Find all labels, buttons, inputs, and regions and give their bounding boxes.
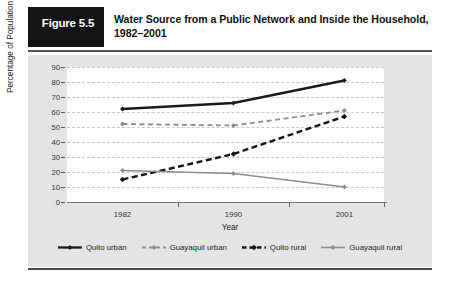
- y-axis-tick-label: 30: [38, 153, 60, 162]
- y-axis-tick-mark: [61, 97, 65, 98]
- y-axis-tick-label: 80: [38, 78, 60, 87]
- data-point-marker: [120, 122, 125, 127]
- panel-bottom-divider: [28, 268, 432, 270]
- y-axis-tick-label: 10: [38, 183, 60, 192]
- y-axis-tick-label: 60: [38, 108, 60, 117]
- x-axis-tick-label: 1982: [97, 210, 147, 219]
- title-divider: [28, 50, 432, 52]
- data-point-marker: [120, 107, 125, 112]
- x-axis-tick-label: 2001: [319, 210, 369, 219]
- series-layer: [67, 67, 384, 202]
- data-point-marker: [231, 101, 236, 106]
- legend-item-quito-rural[interactable]: Quito rural: [242, 243, 306, 252]
- y-axis-tick-label: 0: [38, 198, 60, 207]
- y-axis-tick-label: 20: [38, 168, 60, 177]
- y-axis-tick-mark: [61, 82, 65, 83]
- legend-swatch-icon: [142, 243, 166, 252]
- legend-label: Guayaquil rural: [349, 243, 402, 252]
- data-point-marker: [342, 78, 347, 83]
- figure-number-label: Figure 5.5: [33, 17, 103, 29]
- data-point-marker: [231, 171, 236, 176]
- legend-item-guayaquil-rural[interactable]: Guayaquil rural: [321, 243, 402, 252]
- x-axis-line: [67, 202, 387, 203]
- y-axis-tick-mark: [61, 187, 65, 188]
- data-point-marker: [120, 168, 125, 173]
- data-point-marker: [120, 177, 125, 182]
- figure-container: Figure 5.5 Water Source from a Public Ne…: [0, 0, 452, 291]
- legend-label: Quito rural: [270, 243, 306, 252]
- figure-number-badge: Figure 5.5: [28, 7, 104, 47]
- y-axis-tick-mark: [61, 157, 65, 158]
- y-axis-tick-mark: [61, 202, 65, 203]
- y-axis-tick-mark: [61, 172, 65, 173]
- data-point-marker: [342, 108, 347, 113]
- data-point-marker: [231, 123, 236, 128]
- data-point-marker: [342, 185, 347, 190]
- chart-panel: Percentage of Population 010203040506070…: [28, 55, 432, 267]
- legend-swatch-icon: [242, 243, 266, 252]
- legend-item-guayaquil-urban[interactable]: Guayaquil urban: [142, 243, 227, 252]
- series-quito-urban: [120, 78, 347, 111]
- legend-label: Quito urban: [86, 243, 127, 252]
- y-axis-tick-label: 70: [38, 93, 60, 102]
- y-axis-tick-mark: [61, 127, 65, 128]
- y-axis-tick-mark: [61, 67, 65, 68]
- y-axis-tick-mark: [61, 112, 65, 113]
- x-axis-tick-label: 1990: [208, 210, 258, 219]
- legend-swatch-icon: [321, 243, 345, 252]
- legend-swatch-icon: [58, 243, 82, 252]
- y-axis-tick-label: 50: [38, 123, 60, 132]
- legend-label: Guayaquil urban: [170, 243, 227, 252]
- x-axis-title: Year: [28, 223, 432, 232]
- series-guayaquil-rural: [120, 168, 347, 189]
- figure-title-text: Water Source from a Public Network and I…: [114, 12, 432, 40]
- y-axis-tick-mark: [61, 142, 65, 143]
- figure-title-block: Figure 5.5 Water Source from a Public Ne…: [28, 7, 432, 49]
- legend-item-quito-urban[interactable]: Quito urban: [58, 243, 127, 252]
- y-axis-tick-label: 90: [38, 63, 60, 72]
- chart-legend: Quito urbanGuayaquil urbanQuito ruralGua…: [28, 243, 432, 252]
- y-axis-title: Percentage of Population: [6, 1, 15, 93]
- series-guayaquil-urban: [120, 108, 347, 128]
- y-axis-tick-label: 40: [38, 138, 60, 147]
